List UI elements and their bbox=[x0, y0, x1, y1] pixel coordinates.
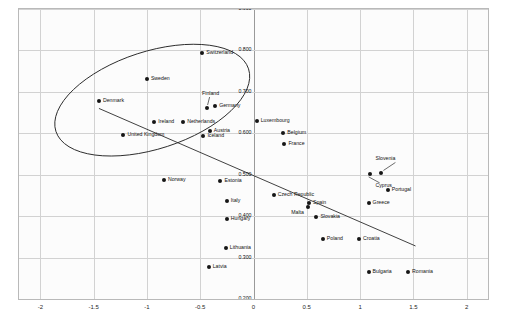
label-leader-lines bbox=[208, 97, 396, 183]
y-axis-tick-label: 0.200 bbox=[239, 296, 252, 300]
cluster-ellipse bbox=[41, 23, 264, 178]
y-axis-tick-label: 0.700 bbox=[239, 89, 252, 94]
y-axis-tick-label: 0.900 bbox=[239, 8, 252, 12]
y-axis-tick-label: 0.800 bbox=[239, 48, 252, 53]
x-axis-tick-label: 1 bbox=[358, 304, 361, 310]
y-axis-tick-label: 0.400 bbox=[239, 214, 252, 219]
gridline-horizontal bbox=[19, 299, 488, 300]
x-axis-tick-label: -1 bbox=[144, 304, 149, 310]
x-axis-tick-label: -2 bbox=[38, 304, 43, 310]
y-axis-tick-label: 0.600 bbox=[239, 131, 252, 136]
x-axis-tick-label: -0.5 bbox=[195, 304, 205, 310]
trend-line bbox=[99, 108, 416, 246]
x-axis-tick-label: 1.5 bbox=[409, 304, 417, 310]
y-axis-tick-label: 0.300 bbox=[239, 255, 252, 260]
y-axis-tick-label: 0.500 bbox=[239, 172, 252, 177]
plot-area: SwitzerlandSwedenDenmarkFinlandGermanyLu… bbox=[18, 8, 489, 300]
x-axis-tick-label: 2 bbox=[465, 304, 468, 310]
x-axis-tick-label: 0 bbox=[252, 304, 255, 310]
scatter-chart: SwitzerlandSwedenDenmarkFinlandGermanyLu… bbox=[0, 0, 507, 328]
x-axis-tick-label: -1.5 bbox=[88, 304, 98, 310]
annotation-overlay bbox=[19, 9, 489, 300]
x-axis-tick-label: 0.5 bbox=[303, 304, 311, 310]
